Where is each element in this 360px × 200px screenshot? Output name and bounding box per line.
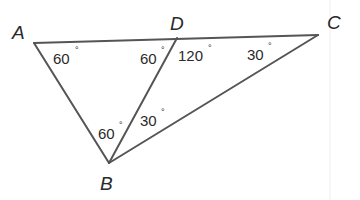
degree-symbol: ° <box>161 45 165 55</box>
angle-label-bdc: 120 <box>178 47 203 64</box>
triangle-diagram: A D C B 60 ° 60 ° 120 ° 30 ° 60 ° 30 ° <box>0 0 360 200</box>
angle-label-c: 30 <box>247 46 264 63</box>
vertex-label-c: C <box>327 12 341 33</box>
degree-symbol: ° <box>268 41 272 51</box>
vertex-label-a: A <box>11 22 25 43</box>
degree-symbol: ° <box>119 120 123 130</box>
angle-label-a: 60 <box>53 50 70 67</box>
angle-label-adb: 60 <box>140 50 157 67</box>
degree-symbol: ° <box>208 43 212 53</box>
degree-symbol: ° <box>161 107 165 117</box>
vertex-label-d: D <box>170 13 184 34</box>
degree-symbol: ° <box>75 45 79 55</box>
angle-label-abd: 60 <box>98 125 115 142</box>
vertex-label-b: B <box>100 173 113 194</box>
diagram-svg: A D C B 60 ° 60 ° 120 ° 30 ° 60 ° 30 ° <box>0 0 360 200</box>
angle-label-dbc: 30 <box>140 112 157 129</box>
segment-ab <box>34 43 109 163</box>
